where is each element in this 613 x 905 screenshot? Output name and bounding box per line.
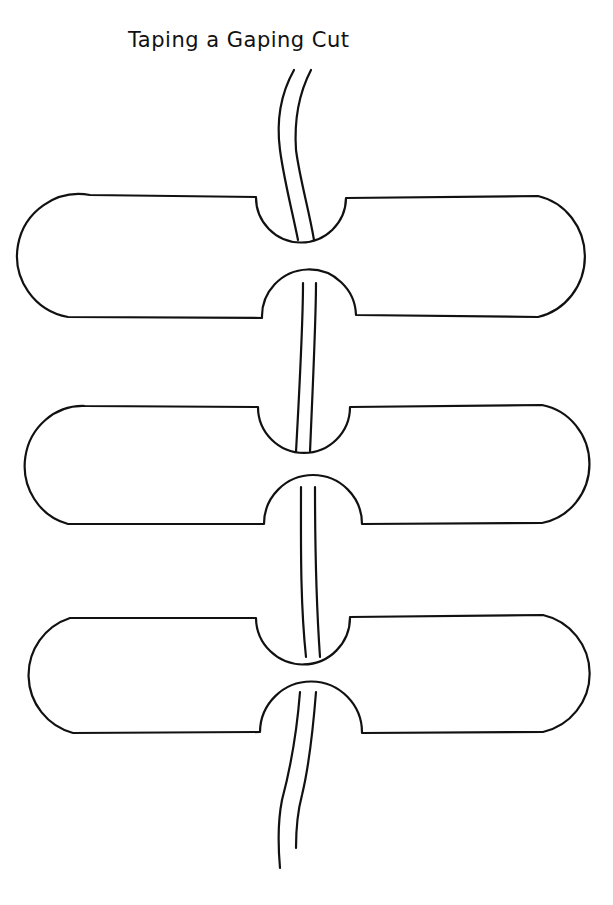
butterfly-strip-2: [25, 405, 590, 524]
butterfly-strip-3: [29, 615, 590, 733]
taping-diagram: [0, 0, 613, 905]
cut-lines: [279, 70, 320, 868]
butterfly-strip-1: [17, 194, 585, 318]
